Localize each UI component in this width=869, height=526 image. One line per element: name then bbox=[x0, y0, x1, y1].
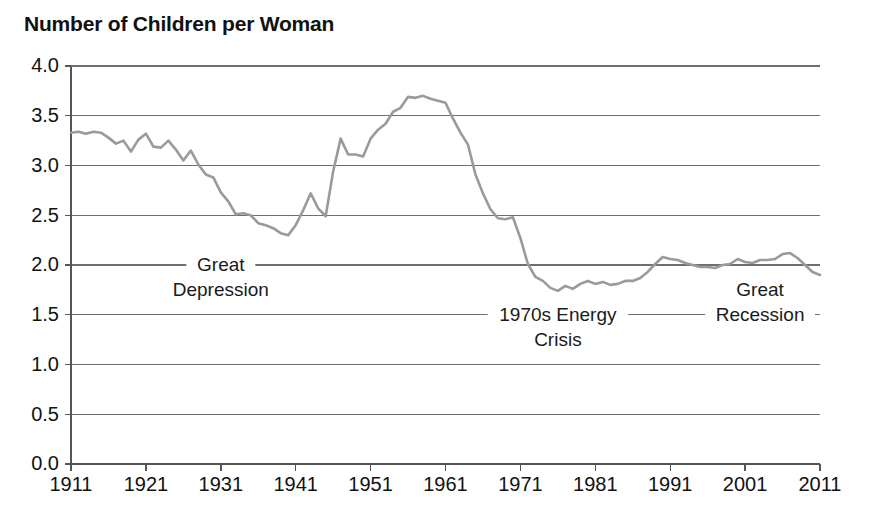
x-tick-label: 1981 bbox=[573, 473, 618, 495]
annotation-label-great-depression-line2: Depression bbox=[173, 279, 269, 300]
gridlines-group bbox=[71, 66, 820, 414]
annotation-label-energy-crisis-line2: Crisis bbox=[534, 329, 582, 350]
y-tick-label: 2.0 bbox=[31, 253, 59, 275]
x-tick-label: 1991 bbox=[648, 473, 693, 495]
x-tick-label: 1971 bbox=[498, 473, 543, 495]
annotation-label-great-depression-line1: Great bbox=[197, 254, 245, 275]
y-tick-label: 0.5 bbox=[31, 403, 59, 425]
chart-container: Number of Children per Woman 4.03.53.02.… bbox=[0, 0, 869, 526]
x-axis-ticks: 1911192119311941195119611971198119912001… bbox=[49, 464, 841, 495]
x-tick-label: 1951 bbox=[348, 473, 393, 495]
y-tick-label: 3.5 bbox=[31, 104, 59, 126]
x-tick-label: 2011 bbox=[798, 473, 841, 495]
y-tick-label: 4.0 bbox=[31, 54, 59, 76]
fertility-rate-line bbox=[71, 96, 820, 291]
y-tick-label: 1.0 bbox=[31, 353, 59, 375]
x-tick-label: 1961 bbox=[423, 473, 468, 495]
y-axis-ticks: 4.03.53.02.52.01.51.00.50.0 bbox=[31, 54, 71, 474]
annotation-label-great-recession-line2: Recession bbox=[716, 304, 805, 325]
x-tick-label: 1941 bbox=[273, 473, 318, 495]
data-series-group bbox=[71, 96, 820, 291]
y-tick-label: 0.0 bbox=[31, 452, 59, 474]
x-tick-label: 2001 bbox=[723, 473, 768, 495]
y-tick-label: 3.0 bbox=[31, 154, 59, 176]
y-tick-label: 2.5 bbox=[31, 204, 59, 226]
x-tick-label: 1911 bbox=[49, 473, 92, 495]
line-chart-plot: 4.03.53.02.52.01.51.00.50.0 191119211931… bbox=[0, 0, 869, 526]
x-tick-label: 1931 bbox=[199, 473, 244, 495]
y-tick-label: 1.5 bbox=[31, 303, 59, 325]
x-tick-label: 1921 bbox=[124, 473, 169, 495]
annotation-label-energy-crisis-line1: 1970s Energy bbox=[499, 304, 617, 325]
annotation-label-great-recession-line1: Great bbox=[736, 279, 784, 300]
